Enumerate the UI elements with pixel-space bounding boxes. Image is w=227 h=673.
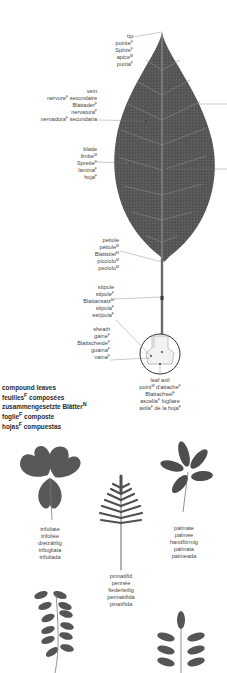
label-it: laminaF	[77, 167, 97, 174]
label-it: stipolaF	[83, 305, 114, 312]
label-de: BlattstielM	[95, 251, 119, 258]
pinnate-leaf-icon	[33, 589, 74, 673]
label-es: puntaF	[115, 61, 133, 68]
heading-es: hojasF compuestas	[2, 421, 86, 431]
label-de: SpitzeF	[115, 47, 133, 54]
label-it: ascellaF fogliare	[128, 398, 192, 405]
label-fr: pétioleM	[95, 244, 119, 251]
label-sheath: sheath gaineF BlattscheideF guainaF vain…	[77, 326, 110, 361]
label-fr: pointM d'attacheF	[128, 384, 192, 391]
label-vein: vein nervureF secondaire BlattaderF nerv…	[41, 88, 97, 123]
label-palmate: palmate palmée handförmig palmata palmea…	[156, 525, 212, 560]
heading-fr: feuillesF composées	[2, 392, 86, 402]
label-en: petiole	[95, 237, 119, 244]
label-fr: pointeF	[115, 40, 133, 47]
label-fr: limbeM	[77, 153, 97, 160]
label-it: apiceM	[115, 54, 133, 61]
simple-leaf-icon	[114, 32, 215, 345]
trifoliate-leaf-icon	[16, 442, 84, 520]
label-es: pecioloM	[95, 265, 119, 272]
label-pinnatifid: pinnatifid pennée fiederteilig pennatifi…	[93, 573, 149, 608]
label-blade: blade limbeM SpreiteF laminaF hojaF	[77, 146, 97, 181]
label-en: blade	[77, 146, 97, 153]
label-stipule: stipule stipuleF BlattansatzM stipolaF e…	[83, 284, 114, 319]
pinnatifid-leaf-icon	[100, 476, 142, 570]
label-trifoliate: trifoliate trifoliée dreizählig trifogli…	[22, 526, 78, 561]
label-en: stipule	[83, 284, 114, 291]
label-petiole: petiole pétioleM BlattstielM piccioloM p…	[95, 237, 119, 272]
label-it: nervaturaF	[41, 109, 97, 116]
label-es: estípulaF	[83, 312, 114, 319]
label-fr: stipuleF	[83, 291, 114, 298]
label-fr: nervureF secondaire	[41, 95, 97, 102]
label-es: hojaF	[77, 174, 97, 181]
label-de: BlattaderF	[41, 102, 97, 109]
label-fr: gaineF	[77, 333, 110, 340]
label-leaf-axil: leaf axil pointM d'attacheF BlattachselF…	[128, 377, 192, 412]
label-en: sheath	[77, 326, 110, 333]
label-de: BlattansatzM	[83, 298, 114, 305]
compound-leaves-heading: compound leaves feuillesF composées zusa…	[2, 384, 86, 430]
odd-pinnate-leaf-icon	[156, 611, 205, 673]
label-en: tip	[115, 33, 133, 40]
label-it: piccioloM	[95, 258, 119, 265]
label-de: SpreiteF	[77, 160, 97, 167]
label-en: leaf axil	[128, 377, 192, 384]
heading-it: foglieF composte	[2, 411, 86, 421]
stipule-mark	[161, 296, 164, 300]
label-es: axilaF de la hojaF	[128, 405, 192, 412]
label-de: BlattscheideF	[77, 340, 110, 347]
label-it: guainaF	[77, 347, 110, 354]
label-tip: tip pointeF SpitzeF apiceM puntaF	[115, 33, 133, 68]
label-en: vein	[41, 88, 97, 95]
heading-de: zusammengesetzte BlätterN	[2, 401, 86, 411]
label-es: vainaF	[77, 354, 110, 361]
heading-en: compound leaves	[2, 384, 86, 392]
label-de: BlattachselF	[128, 391, 192, 398]
palmate-leaf-icon	[159, 440, 213, 512]
label-es: nervaduraF secundaria	[41, 116, 97, 123]
